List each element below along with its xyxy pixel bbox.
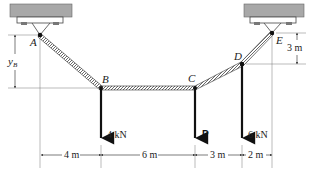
cable-segment-AB xyxy=(38,33,102,90)
label-A: A xyxy=(29,36,37,48)
cable-segment-CD xyxy=(195,62,243,90)
left-support xyxy=(10,4,72,35)
load-label-C: P xyxy=(202,129,209,140)
label-C: C xyxy=(188,72,196,84)
cable-segment-DE xyxy=(241,31,274,66)
cable-diagram: A B C D E 4 kN P 6 kN 4 m 6 m 3 m 2 m yB… xyxy=(0,0,316,174)
dim-label-vertical-3m: 3 m xyxy=(287,42,303,53)
cable-segment-BC xyxy=(101,86,195,90)
right-support xyxy=(244,4,304,33)
ceiling-block-left xyxy=(10,4,72,17)
dim-label-AB: 4 m xyxy=(64,149,80,160)
joint-E xyxy=(270,31,274,35)
label-D: D xyxy=(233,50,242,62)
load-label-B: 4 kN xyxy=(107,129,127,140)
ceiling-block-right xyxy=(244,4,304,17)
bolt-icon xyxy=(53,22,59,25)
dim-label-BC: 6 m xyxy=(142,149,158,160)
reference-lines xyxy=(8,33,306,168)
label-B: B xyxy=(102,73,109,85)
dim-label-CD: 3 m xyxy=(210,149,226,160)
label-E: E xyxy=(275,34,283,46)
load-label-D: 6 kN xyxy=(248,129,268,140)
bolt-icon xyxy=(21,22,27,25)
bolt-icon xyxy=(254,22,260,25)
dim-label-DE: 2 m xyxy=(248,149,264,160)
dim-label-yB: yB xyxy=(7,55,18,69)
bolt-icon xyxy=(286,22,292,25)
joint-A xyxy=(38,33,42,37)
